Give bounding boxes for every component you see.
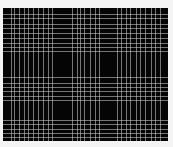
horizontal-grid-line [3,87,168,88]
plaid-grid-canvas [3,8,168,141]
horizontal-grid-line [3,77,168,78]
horizontal-grid-line [3,120,168,121]
horizontal-grid-line [3,38,168,39]
horizontal-grid-line [3,96,168,97]
horizontal-grid-line [3,47,168,48]
horizontal-grid-line [3,28,168,29]
horizontal-grid-line [3,137,168,138]
horizontal-grid-line [3,91,168,92]
horizontal-grid-line [3,129,168,130]
horizontal-grid-line [3,24,168,25]
horizontal-grid-line [3,18,168,19]
horizontal-grid-line [3,100,168,101]
horizontal-grid-line [3,51,168,52]
horizontal-grid-line [3,14,168,15]
horizontal-grid-line [3,83,168,84]
horizontal-grid-line [3,33,168,34]
horizontal-grid-line [3,124,168,125]
horizontal-grid-line [3,43,168,44]
horizontal-grid-line [3,133,168,134]
